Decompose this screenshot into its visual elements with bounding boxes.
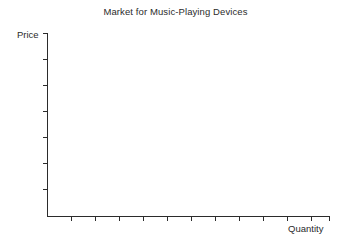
x-axis-label: Quantity <box>288 223 323 235</box>
chart-screenshot: Market for Music-Playing Devices <box>0 0 351 240</box>
plot-area <box>48 33 330 216</box>
y-axis-ticks <box>43 34 47 190</box>
y-axis-label: Price <box>17 29 39 41</box>
